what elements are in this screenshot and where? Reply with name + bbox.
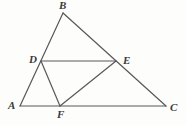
segment-EF	[60, 61, 116, 106]
geometry-canvas	[0, 0, 186, 125]
vertex-label-E: E	[123, 55, 130, 66]
segment-DF	[41, 61, 60, 106]
vertex-label-B: B	[59, 0, 66, 11]
vertex-label-A: A	[8, 100, 15, 111]
segments-group	[20, 13, 166, 106]
geometry-figure: A B C D E F	[0, 0, 186, 125]
vertex-label-C: C	[170, 102, 177, 113]
vertex-label-D: D	[29, 54, 37, 65]
segment-BC	[63, 13, 166, 106]
vertex-label-F: F	[57, 109, 64, 120]
segment-AB	[20, 13, 63, 106]
